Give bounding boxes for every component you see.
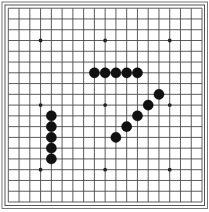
- black-stone: [122, 122, 132, 132]
- gomoku-board[interactable]: [0, 0, 209, 212]
- star-point: [103, 103, 107, 107]
- star-point: [168, 39, 172, 43]
- star-point: [39, 103, 43, 107]
- star-point: [103, 39, 107, 43]
- star-point: [168, 168, 172, 172]
- black-stone: [46, 143, 56, 153]
- black-stone: [111, 68, 121, 78]
- black-stone: [122, 68, 132, 78]
- star-point: [39, 168, 43, 172]
- black-stone: [46, 132, 56, 142]
- black-stone: [46, 122, 56, 132]
- black-stone: [154, 89, 164, 99]
- black-stone: [46, 154, 56, 164]
- star-point: [39, 39, 43, 43]
- star-point: [103, 168, 107, 172]
- black-stone: [46, 111, 56, 121]
- black-stone: [111, 132, 121, 142]
- black-stone: [132, 68, 142, 78]
- black-stone: [100, 68, 110, 78]
- black-stone: [143, 100, 153, 110]
- star-point: [168, 103, 172, 107]
- black-stone: [132, 111, 142, 121]
- black-stone: [89, 68, 99, 78]
